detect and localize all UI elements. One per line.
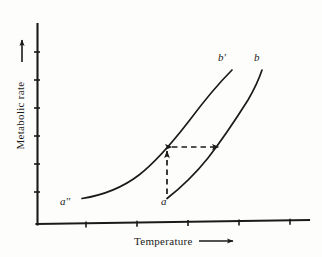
chart-canvas — [0, 0, 322, 257]
figure-root: b' b a'' a Temperature Metabolic rate — [0, 0, 322, 257]
x-axis-line — [37, 220, 310, 224]
curve-label-a-double-prime: a'' — [60, 196, 70, 207]
x-axis-title: Temperature — [134, 236, 193, 247]
y-axis-title: Metabolic rate — [15, 68, 26, 164]
curve-label-a: a — [161, 196, 167, 207]
curve-label-b-prime: b' — [218, 52, 226, 63]
curve-label-b: b — [254, 52, 260, 63]
curve-a-double-prime-to-b-prime — [82, 70, 232, 199]
